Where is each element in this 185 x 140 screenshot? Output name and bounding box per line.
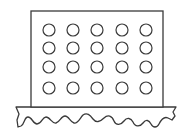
board-drawing xyxy=(0,0,185,140)
wavy-base xyxy=(16,107,176,127)
board-panel xyxy=(31,11,163,107)
